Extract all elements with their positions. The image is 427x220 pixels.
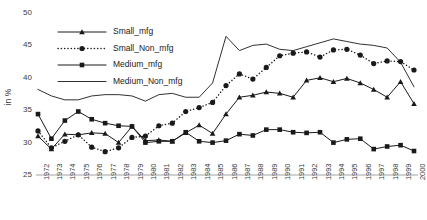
datapoint-Medium_mfg-1998	[385, 144, 390, 149]
legend-label-Medium_Non_mfg[interactable]: Medium_Non_mfg	[113, 76, 182, 86]
datapoint-Medium_mfg-1994	[331, 140, 336, 145]
datapoint-Small_mfg-1997	[371, 87, 377, 92]
datapoint-Small_Non_mfg-1980	[143, 134, 148, 139]
datapoint-Small_Non_mfg-1995	[344, 47, 349, 52]
datapoint-Medium_mfg-1975	[76, 109, 81, 114]
datapoint-Medium_mfg-1990	[277, 127, 282, 132]
series-line-Medium_mfg	[38, 111, 414, 151]
datapoint-Medium_mfg-1973	[49, 136, 54, 141]
datapoint-Small_Non_mfg-1988	[250, 76, 255, 81]
datapoint-Medium_mfg-1992	[304, 131, 309, 136]
datapoint-Small_Non_mfg-1979	[129, 135, 134, 140]
datapoint-Medium_mfg-1984	[197, 139, 202, 144]
datapoint-Small_mfg-1993	[317, 75, 323, 80]
datapoint-Medium_mfg-1972	[36, 112, 41, 117]
datapoint-Small_Non_mfg-1982	[170, 121, 175, 126]
datapoint-Medium_mfg-1988	[251, 133, 256, 138]
datapoint-Medium_mfg-1977	[103, 121, 108, 126]
datapoint-Small_mfg-2000	[411, 101, 417, 106]
legend-label-Medium_mfg[interactable]: Medium_mfg	[113, 59, 162, 69]
datapoint-Medium_mfg-1991	[291, 130, 296, 135]
series-line-Medium_Non_mfg	[38, 36, 414, 101]
datapoint-Small_Non_mfg-1972	[35, 128, 40, 133]
datapoint-Small_Non_mfg-1989	[264, 65, 269, 70]
datapoint-Small_mfg-1999	[398, 79, 404, 84]
datapoint-Medium_mfg-2000	[412, 149, 417, 154]
datapoint-Medium_mfg-1996	[358, 136, 363, 141]
datapoint-Small_Non_mfg-1986	[223, 83, 228, 88]
datapoint-Medium_mfg-1997	[371, 147, 376, 152]
datapoint-Small_Non_mfg-1994	[331, 47, 336, 52]
legend-label-Small_Non_mfg[interactable]: Small_Non_mfg	[113, 43, 173, 53]
datapoint-Medium_mfg-1986	[224, 138, 229, 143]
legend-label-Small_mfg[interactable]: Small_mfg	[113, 26, 153, 36]
datapoint-Medium_mfg-1987	[237, 132, 242, 137]
datapoint-Small_Non_mfg-1993	[317, 54, 322, 59]
datapoint-Medium_mfg-1983	[183, 130, 188, 135]
legend-swatch-Small_mfg[interactable]	[58, 29, 106, 34]
datapoint-Small_Non_mfg-1984	[197, 105, 202, 110]
datapoint-Small_Non_mfg-2000	[411, 67, 416, 72]
datapoint-Medium_mfg-1979	[130, 124, 135, 129]
series-Medium_Non_mfg	[38, 36, 414, 101]
datapoint-Small_Non_mfg-1981	[156, 123, 161, 128]
datapoint-Small_Non_mfg-1978	[116, 145, 121, 150]
datapoint-Small_Non_mfg-1983	[183, 109, 188, 114]
datapoint-Medium_mfg-1980	[143, 140, 148, 145]
datapoint-Medium_mfg-1985	[210, 140, 215, 145]
datapoint-Small_Non_mfg-1997	[371, 61, 376, 66]
datapoint-Small_Non_mfg-1991	[291, 51, 296, 56]
datapoint-Small_Non_mfg-1990	[277, 53, 282, 58]
datapoint-Small_mfg-1984	[196, 122, 202, 127]
datapoint-Medium_mfg-1993	[318, 130, 323, 135]
legend-swatch-Small_Non_mfg[interactable]	[58, 46, 106, 51]
datapoint-Medium_mfg-1978	[116, 123, 121, 128]
datapoint-Small_Non_mfg-1975	[76, 132, 81, 137]
legend-swatch-Medium_mfg[interactable]	[58, 63, 106, 68]
legend-marker-Small_Non_mfg	[79, 46, 84, 51]
datapoint-Small_Non_mfg-1992	[304, 49, 309, 54]
datapoint-Small_Non_mfg-1976	[89, 145, 94, 150]
datapoint-Small_Non_mfg-1973	[49, 145, 54, 150]
datapoint-Medium_mfg-1989	[264, 127, 269, 132]
datapoint-Small_Non_mfg-1974	[62, 139, 67, 144]
datapoint-Small_Non_mfg-1998	[385, 58, 390, 63]
datapoint-Small_Non_mfg-1977	[103, 149, 108, 154]
datapoint-Medium_mfg-1995	[345, 137, 350, 142]
datapoint-Medium_mfg-1976	[89, 117, 94, 122]
datapoint-Medium_mfg-1981	[157, 139, 162, 144]
datapoint-Small_Non_mfg-1987	[237, 71, 242, 76]
datapoint-Small_Non_mfg-1996	[358, 53, 363, 58]
datapoint-Small_Non_mfg-1985	[210, 100, 215, 105]
datapoint-Medium_mfg-1999	[398, 143, 403, 148]
datapoint-Small_mfg-1995	[344, 76, 350, 81]
datapoint-Medium_mfg-1982	[170, 139, 175, 144]
datapoint-Medium_mfg-1974	[63, 118, 68, 123]
legend-marker-Medium_mfg	[80, 63, 85, 68]
